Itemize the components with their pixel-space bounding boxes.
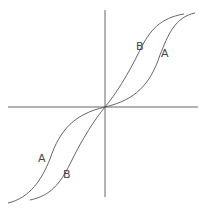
- diagram-canvas: B A A B: [0, 0, 209, 212]
- curve-a: [8, 13, 195, 203]
- label-b-upper: B: [136, 40, 144, 53]
- label-a-lower: A: [38, 152, 46, 165]
- diagram: B A A B: [0, 0, 209, 212]
- label-b-lower: B: [63, 168, 71, 181]
- label-a-upper: A: [161, 47, 169, 60]
